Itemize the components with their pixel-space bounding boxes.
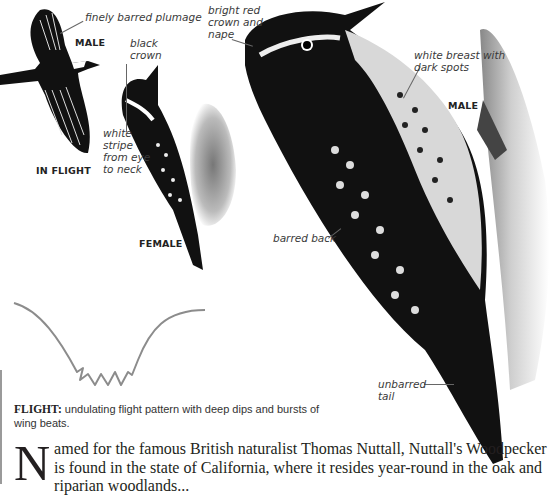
annotation-black-crown: black crown bbox=[130, 37, 162, 61]
caption-female: FEMALE bbox=[139, 238, 183, 249]
body-paragraph-text: amed for the famous British naturalist T… bbox=[54, 440, 546, 494]
drop-cap: N bbox=[14, 444, 50, 482]
annotation-white-breast: white breast with dark spots bbox=[414, 49, 505, 73]
annotation-leader-line bbox=[126, 64, 127, 132]
caption-in-flight: IN FLIGHT bbox=[36, 165, 91, 176]
annotation-red-crown-nape: bright red crown and nape bbox=[208, 4, 263, 40]
body-paragraph: N amed for the famous British naturalist… bbox=[14, 440, 554, 496]
caption-male: MALE bbox=[448, 100, 478, 111]
annotation-white-stripe: white stripe from eye to neck bbox=[103, 127, 150, 175]
annotation-barred-back: barred back bbox=[273, 232, 336, 244]
annotation-finely-barred-plumage: finely barred plumage bbox=[85, 11, 202, 23]
label-male-flight: MALE bbox=[75, 37, 105, 48]
flight-caption: FLIGHT: undulating flight pattern with d… bbox=[14, 402, 344, 430]
annotation-unbarred-tail: unbarred tail bbox=[378, 378, 426, 402]
flying-male-woodpecker-illustration bbox=[0, 5, 110, 160]
flight-caption-heading: FLIGHT: bbox=[14, 403, 62, 415]
flight-pattern-diagram bbox=[0, 290, 220, 400]
annotation-leader-line bbox=[424, 384, 454, 385]
